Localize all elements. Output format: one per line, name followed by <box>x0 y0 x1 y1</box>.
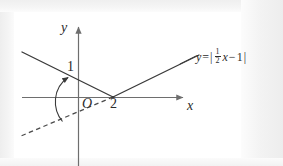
fraction-numerator: 1 <box>215 48 221 56</box>
equation-leader-line <box>180 56 196 64</box>
origin-label: O <box>82 97 92 111</box>
y-intercept-label: 1 <box>67 60 74 74</box>
fraction-one-half: 1 2 <box>215 48 221 66</box>
figure-canvas: y x O 1 2 y = | 1 2 x − 1 | <box>0 0 283 166</box>
graph-svg <box>0 0 283 166</box>
abs-bar-close: | <box>244 51 246 63</box>
equation-equals: = <box>202 51 209 63</box>
y-axis-label: y <box>61 21 67 35</box>
equation-lhs: y <box>196 51 201 63</box>
x-axis-label: x <box>187 99 193 113</box>
dashed-reflected-line <box>21 97 113 136</box>
abs-bar-open: | <box>210 51 212 63</box>
equation-minus: − <box>229 51 236 63</box>
angle-arc-arrow <box>55 78 68 122</box>
equation-label: y = | 1 2 x − 1 | <box>196 48 246 66</box>
equation-variable: x <box>223 51 228 63</box>
x-intercept-label: 2 <box>110 97 117 111</box>
fraction-denominator: 2 <box>215 56 221 65</box>
equation-constant: 1 <box>237 51 243 63</box>
